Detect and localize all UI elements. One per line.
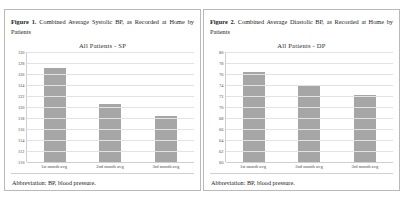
y-tick-label: 124 (18, 82, 25, 87)
x-axis-1: 1st month avg2nd month avg3rd month avg (26, 162, 194, 169)
chart-plot-area-2: 6062646668707274767880 (210, 52, 393, 163)
y-tick-label: 126 (18, 71, 25, 76)
gridline (226, 63, 393, 64)
chart-title-1: All Patients - SP (11, 42, 194, 49)
gridline (27, 140, 194, 141)
x-tick-label: 2nd month avg (82, 164, 138, 169)
y-tick-label: 116 (18, 126, 24, 131)
y-tick-label: 118 (18, 115, 24, 120)
gridline (226, 140, 393, 141)
y-tick-label: 110 (18, 160, 24, 165)
gridline (226, 118, 393, 119)
abbreviation-note-1: Abbreviation: BP, blood pressure. (11, 174, 194, 186)
y-tick-label: 66 (219, 126, 223, 131)
y-tick-label: 120 (18, 104, 25, 109)
x-tick-label: 1st month avg (225, 164, 281, 169)
y-tick-label: 70 (219, 104, 223, 109)
figure-caption-1: Figure 1. Combined Average Systolic BP, … (11, 17, 194, 37)
gridline (226, 151, 393, 152)
y-tick-label: 114 (18, 137, 24, 142)
x-tick-label: 3rd month avg (138, 164, 194, 169)
y-tick-label: 80 (219, 49, 223, 54)
plot-canvas-2 (225, 52, 393, 163)
y-tick-label: 60 (219, 160, 223, 165)
x-tick-label: 3rd month avg (337, 164, 393, 169)
gridline (226, 129, 393, 130)
y-axis-1: 110112114116118120122124126128130 (11, 52, 26, 163)
gridline (27, 96, 194, 97)
gridline (27, 118, 194, 119)
abbreviation-note-2: Abbreviation: BP, blood pressure. (210, 174, 393, 186)
gridline (27, 74, 194, 75)
gridline (27, 52, 194, 53)
y-tick-label: 74 (219, 82, 223, 87)
bar (99, 104, 121, 162)
gridline (226, 52, 393, 53)
gridline (226, 85, 393, 86)
gridline (27, 85, 194, 86)
x-tick-label: 1st month avg (26, 164, 82, 169)
gridline (226, 74, 393, 75)
gridline (27, 151, 194, 152)
figure-caption-label-1: Figure 1. (11, 18, 36, 25)
y-tick-label: 72 (219, 93, 223, 98)
y-axis-2: 6062646668707274767880 (210, 52, 225, 163)
y-tick-label: 128 (18, 60, 25, 65)
gridline (27, 63, 194, 64)
gridline (226, 107, 393, 108)
bar (44, 68, 66, 162)
gridline (226, 96, 393, 97)
chart-title-2: All Patients - DP (210, 42, 393, 49)
figure-caption-label-2: Figure 2. (210, 18, 235, 25)
y-tick-label: 78 (219, 60, 223, 65)
figure-caption-text-1: Combined Average Systolic BP, as Recorde… (11, 18, 194, 35)
figure-caption-2: Figure 2. Combined Average Diastolic BP,… (210, 17, 393, 37)
gridline (27, 162, 194, 163)
y-tick-label: 64 (219, 137, 223, 142)
y-tick-label: 130 (18, 49, 25, 54)
gridline (226, 162, 393, 163)
y-tick-label: 76 (219, 71, 223, 76)
gridline (27, 107, 194, 108)
figure-panel-1: Figure 1. Combined Average Systolic BP, … (4, 9, 201, 191)
figure-caption-text-2: Combined Average Diastolic BP, as Record… (210, 18, 393, 35)
figure-sheet: Figure 1. Combined Average Systolic BP, … (0, 0, 404, 203)
x-tick-label: 2nd month avg (281, 164, 337, 169)
y-tick-label: 62 (219, 148, 223, 153)
page-footer-ghost-text (0, 195, 404, 203)
figure-panel-2: Figure 2. Combined Average Diastolic BP,… (203, 9, 400, 191)
chart-plot-area-1: 110112114116118120122124126128130 (11, 52, 194, 163)
x-axis-2: 1st month avg2nd month avg3rd month avg (225, 162, 393, 169)
plot-canvas-1 (26, 52, 194, 163)
y-tick-label: 68 (219, 115, 223, 120)
y-tick-label: 112 (18, 148, 24, 153)
y-tick-label: 122 (18, 93, 25, 98)
gridline (27, 129, 194, 130)
